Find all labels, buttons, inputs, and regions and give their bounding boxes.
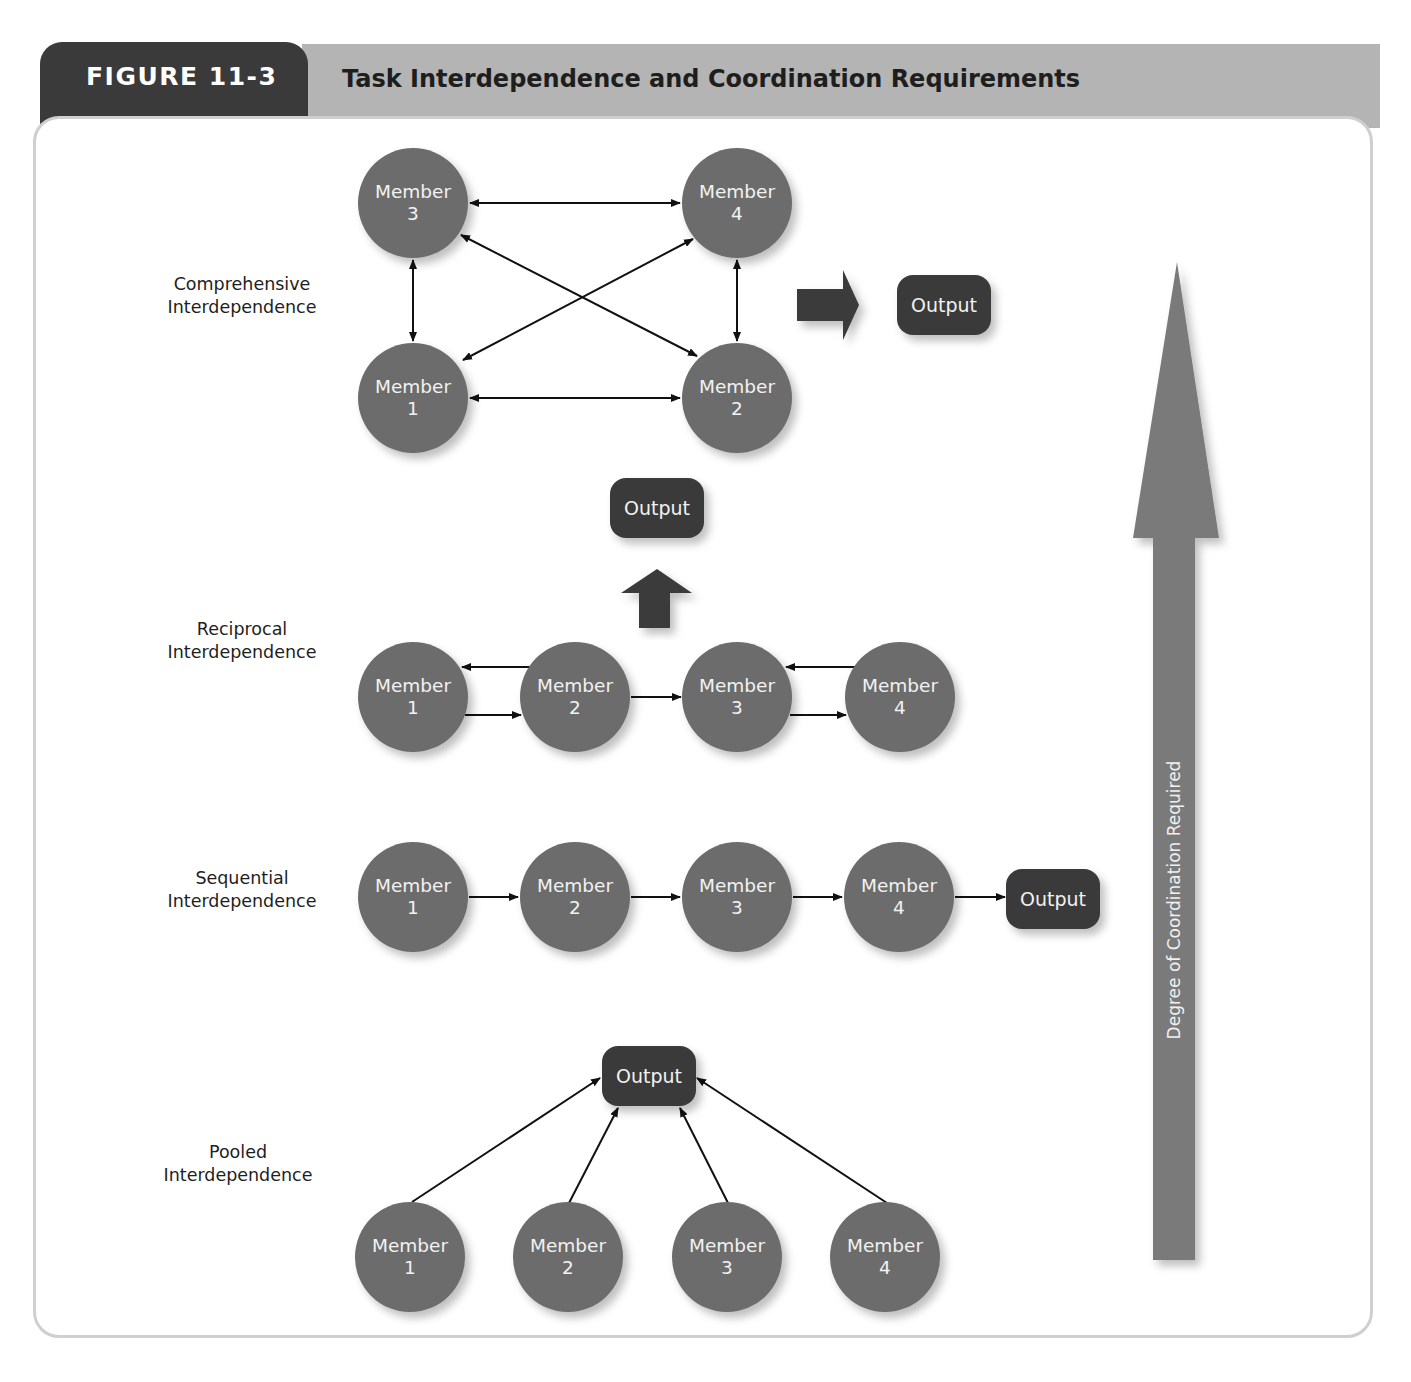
comprehensive-output-arrow-icon [797,270,859,340]
member-number: 3 [731,697,743,719]
row-label-line1: Sequential [147,867,337,890]
reciprocal-output-arrow-icon [621,569,692,628]
member-word: Member [375,376,451,398]
member-number: 4 [894,697,906,719]
member-number: 4 [879,1257,891,1279]
coordination-axis-label: Degree of Coordination Required [1164,761,1184,1040]
row-label-pooled: Pooled Interdependence [143,1141,333,1187]
row-label-line2: Interdependence [147,641,337,664]
pooled-member-1: Member 1 [355,1202,465,1312]
member-number: 4 [893,897,905,919]
sequential-member-1: Member 1 [358,842,468,952]
member-word: Member [537,875,613,897]
comprehensive-links [413,203,737,398]
row-label-line2: Interdependence [147,296,337,319]
sequential-member-2: Member 2 [520,842,630,952]
pooled-output: Output [602,1046,696,1106]
reciprocal-member-4: Member 4 [845,642,955,752]
row-label-line2: Interdependence [143,1164,333,1187]
member-number: 2 [562,1257,574,1279]
row-label-line1: Reciprocal [147,618,337,641]
row-label-sequential: Sequential Interdependence [147,867,337,913]
member-number: 1 [407,897,419,919]
comprehensive-member-4: Member 4 [682,148,792,258]
pooled-member-3: Member 3 [672,1202,782,1312]
member-word: Member [689,1235,765,1257]
member-number: 1 [407,697,419,719]
pooled-member-2: Member 2 [513,1202,623,1312]
member-number: 2 [569,897,581,919]
member-word: Member [375,675,451,697]
reciprocal-member-1: Member 1 [358,642,468,752]
sequential-member-4: Member 4 [844,842,954,952]
comprehensive-member-2: Member 2 [682,343,792,453]
member-word: Member [375,875,451,897]
pooled-member-4: Member 4 [830,1202,940,1312]
row-label-line2: Interdependence [147,890,337,913]
member-word: Member [847,1235,923,1257]
member-number: 2 [569,697,581,719]
comprehensive-output: Output [897,275,991,335]
member-word: Member [375,181,451,203]
reciprocal-output: Output [610,478,704,538]
member-word: Member [699,181,775,203]
reciprocal-member-2: Member 2 [520,642,630,752]
member-word: Member [699,376,775,398]
member-number: 3 [721,1257,733,1279]
member-number: 3 [731,897,743,919]
sequential-output: Output [1006,869,1100,929]
member-word: Member [530,1235,606,1257]
row-label-line1: Pooled [143,1141,333,1164]
member-word: Member [537,675,613,697]
comprehensive-member-1: Member 1 [358,343,468,453]
member-number: 1 [407,398,419,420]
member-word: Member [861,875,937,897]
member-number: 3 [407,203,419,225]
row-label-line1: Comprehensive [147,273,337,296]
member-number: 1 [404,1257,416,1279]
row-label-comprehensive: Comprehensive Interdependence [147,273,337,319]
member-word: Member [699,875,775,897]
comprehensive-member-3: Member 3 [358,148,468,258]
reciprocal-member-3: Member 3 [682,642,792,752]
member-number: 4 [731,203,743,225]
sequential-member-3: Member 3 [682,842,792,952]
member-word: Member [862,675,938,697]
member-word: Member [372,1235,448,1257]
row-label-reciprocal: Reciprocal Interdependence [147,618,337,664]
member-number: 2 [731,398,743,420]
member-word: Member [699,675,775,697]
